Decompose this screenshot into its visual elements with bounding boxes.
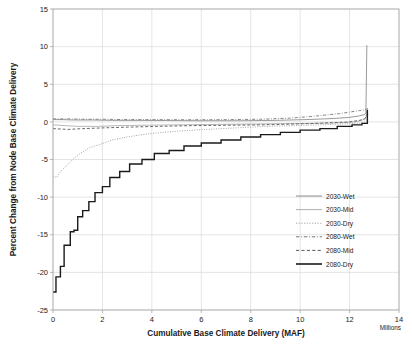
x-tick-label: 10 bbox=[296, 315, 304, 324]
x-tick-label: 8 bbox=[249, 315, 253, 324]
y-tick-label: 5 bbox=[44, 80, 48, 89]
y-axis: -25-20-15-10-5051015 bbox=[37, 5, 53, 315]
x-tick-label: 4 bbox=[150, 315, 154, 324]
y-tick-label: -20 bbox=[37, 268, 48, 277]
legend-label-2030-wet: 2030-Wet bbox=[326, 193, 355, 200]
legend-label-2080-dry: 2080-Dry bbox=[326, 261, 354, 269]
x-tick-label: 14 bbox=[395, 315, 403, 324]
y-tick-label: -10 bbox=[37, 193, 48, 202]
y-tick-label: 15 bbox=[40, 5, 48, 14]
x-tick-label: 12 bbox=[345, 315, 353, 324]
y-tick-label: -25 bbox=[37, 306, 48, 315]
x-axis-title: Cumulative Base Climate Delivery (MAF) bbox=[147, 329, 305, 338]
x-tick-label: 0 bbox=[51, 315, 55, 324]
legend-label-2030-mid: 2030-Mid bbox=[326, 206, 354, 213]
x-tick-label: 2 bbox=[100, 315, 104, 324]
y-tick-label: 10 bbox=[40, 42, 48, 51]
x-axis-units-note: Millions bbox=[380, 324, 401, 331]
y-tick-label: -15 bbox=[37, 230, 48, 239]
legend-label-2080-wet: 2080-Wet bbox=[326, 233, 355, 240]
chart-container: -25-20-15-10-505101502468101214MillionsC… bbox=[0, 0, 412, 350]
y-tick-label: -5 bbox=[41, 155, 48, 164]
x-tick-label: 6 bbox=[199, 315, 203, 324]
x-axis: 02468101214 bbox=[51, 310, 403, 324]
y-tick-label: 0 bbox=[44, 118, 48, 127]
legend-label-2030-dry: 2030-Dry bbox=[326, 220, 354, 228]
line-chart: -25-20-15-10-505101502468101214MillionsC… bbox=[0, 0, 412, 350]
legend-label-2080-mid: 2080-Mid bbox=[326, 247, 354, 254]
y-axis-title: Percent Change from Node Base Climate De… bbox=[9, 62, 18, 256]
